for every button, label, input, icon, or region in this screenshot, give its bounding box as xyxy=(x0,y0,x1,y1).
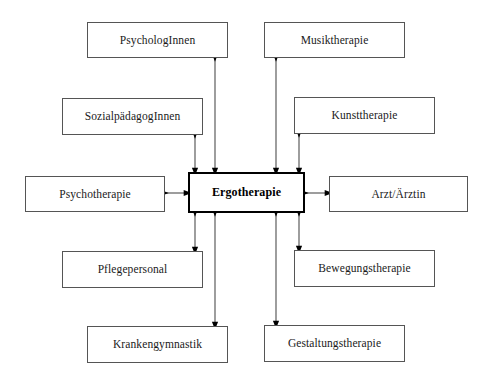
node-label-sozialpaedagoginnen: SozialpädagogInnen xyxy=(85,110,181,123)
node-label-psychologinnen: PsychologInnen xyxy=(120,34,196,47)
node-label-bewegungstherapie: Bewegungstherapie xyxy=(318,262,410,275)
node-label-psychotherapie: Psychotherapie xyxy=(59,188,131,201)
node-psychotherapie[interactable]: Psychotherapie xyxy=(25,176,165,212)
node-label-gestaltungstherapie: Gestaltungstherapie xyxy=(288,337,381,350)
node-label-kunsttherapie: Kunsttherapie xyxy=(332,109,398,122)
node-sozialpaedagoginnen[interactable]: SozialpädagogInnen xyxy=(62,98,203,135)
node-label-ergotherapie: Ergotherapie xyxy=(212,186,281,199)
node-label-musiktherapie: Musiktherapie xyxy=(301,34,369,47)
node-label-pflegepersonal: Pflegepersonal xyxy=(98,263,168,276)
node-pflegepersonal[interactable]: Pflegepersonal xyxy=(62,251,203,288)
node-kunsttherapie[interactable]: Kunsttherapie xyxy=(294,97,435,134)
node-label-krankengymnastik: Krankengymnastik xyxy=(113,338,202,351)
diagram-canvas: PsychologInnenMusiktherapieSozialpädagog… xyxy=(0,0,491,386)
node-label-arzt-aerztin: Arzt/Ärztin xyxy=(371,188,425,201)
node-gestaltungstherapie[interactable]: Gestaltungstherapie xyxy=(264,325,405,362)
node-bewegungstherapie[interactable]: Bewegungstherapie xyxy=(294,250,435,287)
node-ergotherapie[interactable]: Ergotherapie xyxy=(188,172,305,213)
node-arzt-aerztin[interactable]: Arzt/Ärztin xyxy=(329,176,468,212)
node-krankengymnastik[interactable]: Krankengymnastik xyxy=(87,326,228,363)
node-psychologinnen[interactable]: PsychologInnen xyxy=(87,22,228,58)
node-musiktherapie[interactable]: Musiktherapie xyxy=(264,22,405,58)
